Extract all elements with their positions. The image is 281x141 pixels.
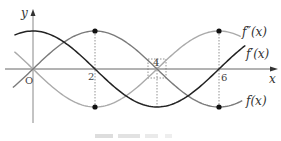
function-graph: y x O 2 4 6 f″(x) f′(x) f(x) (0, 0, 281, 141)
point-fpp-max-6 (216, 28, 221, 33)
x-axis-arrow-icon (270, 67, 278, 72)
curve-label-f: f(x) (245, 94, 267, 108)
curve-label-f-double-prime: f″(x) (241, 25, 267, 39)
point-f-max-2 (92, 28, 97, 33)
tick-label-4: 4 (153, 57, 159, 68)
y-axis-arrow-icon (31, 9, 36, 16)
tick-label-6: 6 (221, 72, 227, 83)
curve-label-f-prime: f′(x) (245, 47, 270, 61)
origin-label: O (25, 75, 33, 86)
x-axis-label: x (269, 72, 276, 86)
point-fpp-min-2 (92, 104, 97, 109)
figure-caption-illegible (95, 134, 185, 138)
point-f-min-6 (216, 104, 221, 109)
y-axis-label: y (20, 6, 28, 20)
tick-label-2: 2 (88, 71, 94, 82)
